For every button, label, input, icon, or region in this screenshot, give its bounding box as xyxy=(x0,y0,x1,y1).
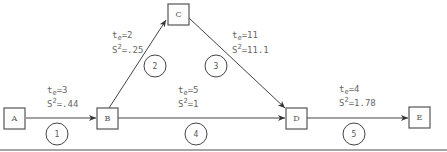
node-a-label: A xyxy=(11,114,18,123)
pert-diagram: A B C D E 1 2 3 4 5 te=3 S2=.44 te=2 S2=… xyxy=(0,0,447,152)
activity-1-te: te=3 xyxy=(47,85,67,97)
node-e-label: E xyxy=(417,113,423,122)
activity-5-variance: S2=1.78 xyxy=(339,96,376,108)
activity-5-number: 5 xyxy=(352,130,357,139)
activity-5-te: te=4 xyxy=(339,84,359,96)
activity-4-variance: S2=1 xyxy=(178,97,198,109)
node-c-label: C xyxy=(175,10,181,19)
activity-1-variance: S2=.44 xyxy=(47,97,78,109)
node-e: E xyxy=(409,107,430,128)
activity-3-circle: 3 xyxy=(205,55,227,77)
activity-3-number: 3 xyxy=(214,62,219,71)
activity-1-circle: 1 xyxy=(46,123,68,145)
node-d-label: D xyxy=(293,114,299,123)
activity-4-te: te=5 xyxy=(178,85,198,97)
activity-3-variance: S2=11.1 xyxy=(232,43,269,55)
node-d: D xyxy=(286,108,307,129)
node-c: C xyxy=(168,4,189,25)
activity-5-circle: 5 xyxy=(343,123,365,145)
node-a: A xyxy=(4,108,25,129)
activity-4-circle: 4 xyxy=(185,123,207,145)
activity-2-te: te=2 xyxy=(112,30,132,42)
activity-2-variance: S2=.25 xyxy=(112,43,143,55)
node-b: B xyxy=(97,108,118,129)
node-b-label: B xyxy=(105,114,111,123)
activity-3-te: te=11 xyxy=(232,30,258,42)
activity-2-number: 2 xyxy=(153,62,158,71)
activity-2-circle: 2 xyxy=(144,55,166,77)
activity-1-number: 1 xyxy=(55,130,60,139)
activity-4-number: 4 xyxy=(194,130,199,139)
